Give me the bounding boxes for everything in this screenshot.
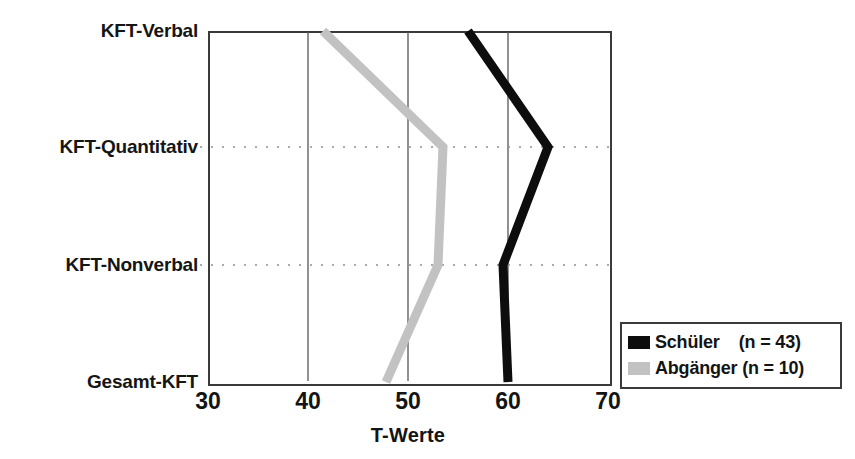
y-axis-label-kft-verbal: KFT-Verbal	[101, 20, 198, 42]
legend-item-abgaenger: Abgänger (n = 10)	[628, 355, 834, 381]
y-axis-labels: KFT-Verbal KFT-Quantitativ KFT-Nonverbal…	[0, 0, 198, 459]
y-axis-label-kft-nonverbal: KFT-Nonverbal	[65, 254, 198, 276]
x-axis-title: T-Werte	[371, 424, 445, 447]
legend-label-schueler: Schüler (n = 43)	[655, 332, 801, 353]
legend-label-abgaenger: Abgänger (n = 10)	[655, 358, 804, 379]
x-tick-40: 40	[295, 388, 321, 415]
legend-swatch-schueler	[628, 336, 650, 349]
x-tick-60: 60	[495, 388, 521, 415]
chart-figure: KFT-Verbal KFT-Quantitativ KFT-Nonverbal…	[0, 0, 855, 459]
x-tick-70: 70	[595, 388, 621, 415]
x-tick-30: 30	[195, 388, 221, 415]
y-axis-label-kft-quantitativ: KFT-Quantitativ	[60, 136, 198, 158]
legend-swatch-abgaenger	[628, 362, 650, 375]
legend-item-schueler: Schüler (n = 43)	[628, 329, 834, 355]
y-axis-label-gesamt-kft: Gesamt-KFT	[87, 371, 198, 393]
x-tick-50: 50	[395, 388, 421, 415]
chart-legend: Schüler (n = 43) Abgänger (n = 10)	[620, 322, 842, 389]
plot-area	[208, 31, 612, 386]
